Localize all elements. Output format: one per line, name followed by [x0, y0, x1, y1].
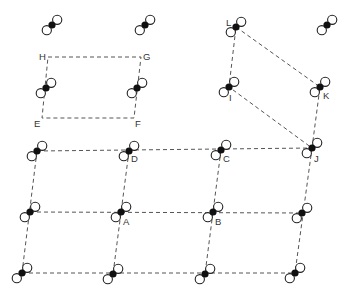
molecule-icon	[135, 15, 155, 35]
label-c: C	[223, 153, 230, 164]
molecule-icon	[27, 141, 47, 161]
label-h: H	[39, 51, 46, 62]
solid-atom	[225, 83, 232, 90]
molecule-icon	[12, 263, 32, 283]
solid-atom	[33, 147, 40, 154]
molecule-icon	[42, 15, 62, 35]
solid-atom	[133, 84, 140, 91]
label-e: E	[34, 118, 40, 129]
cell-efgh	[42, 57, 141, 118]
molecules-layer	[12, 15, 337, 284]
solid-atom	[323, 21, 330, 28]
solid-atom	[26, 208, 33, 215]
solid-atom	[232, 23, 239, 30]
molecule-icon	[20, 202, 40, 222]
solid-atom	[48, 21, 55, 28]
molecule-icon	[317, 15, 337, 35]
label-g: G	[143, 51, 150, 62]
molecule-icon	[127, 78, 147, 98]
label-d: D	[131, 153, 138, 164]
dashed-lattice-lines	[22, 27, 320, 274]
solid-atom	[201, 270, 208, 277]
solid-atom	[109, 270, 116, 277]
label-l: L	[226, 17, 231, 28]
molecule-icon	[195, 264, 215, 284]
cell-ijkl	[229, 27, 320, 148]
lattice-diagram: HGEFLIKJDCAB	[0, 0, 345, 297]
molecule-icon	[103, 264, 123, 284]
cell-grid-h2	[30, 212, 302, 213]
solid-atom	[308, 144, 315, 151]
label-i: I	[229, 92, 232, 103]
label-j: J	[314, 153, 319, 164]
label-b: B	[215, 216, 221, 227]
label-f: F	[135, 118, 141, 129]
solid-atom	[298, 209, 305, 216]
solid-atom	[18, 269, 25, 276]
label-a: A	[123, 216, 130, 227]
solid-atom	[209, 208, 216, 215]
solid-atom	[42, 84, 49, 91]
point-labels: HGEFLIKJDCAB	[34, 17, 330, 227]
label-k: K	[323, 90, 330, 101]
solid-atom	[291, 269, 298, 276]
cell-grid-h1	[37, 148, 312, 151]
solid-atom	[141, 21, 148, 28]
solid-atom	[117, 208, 124, 215]
